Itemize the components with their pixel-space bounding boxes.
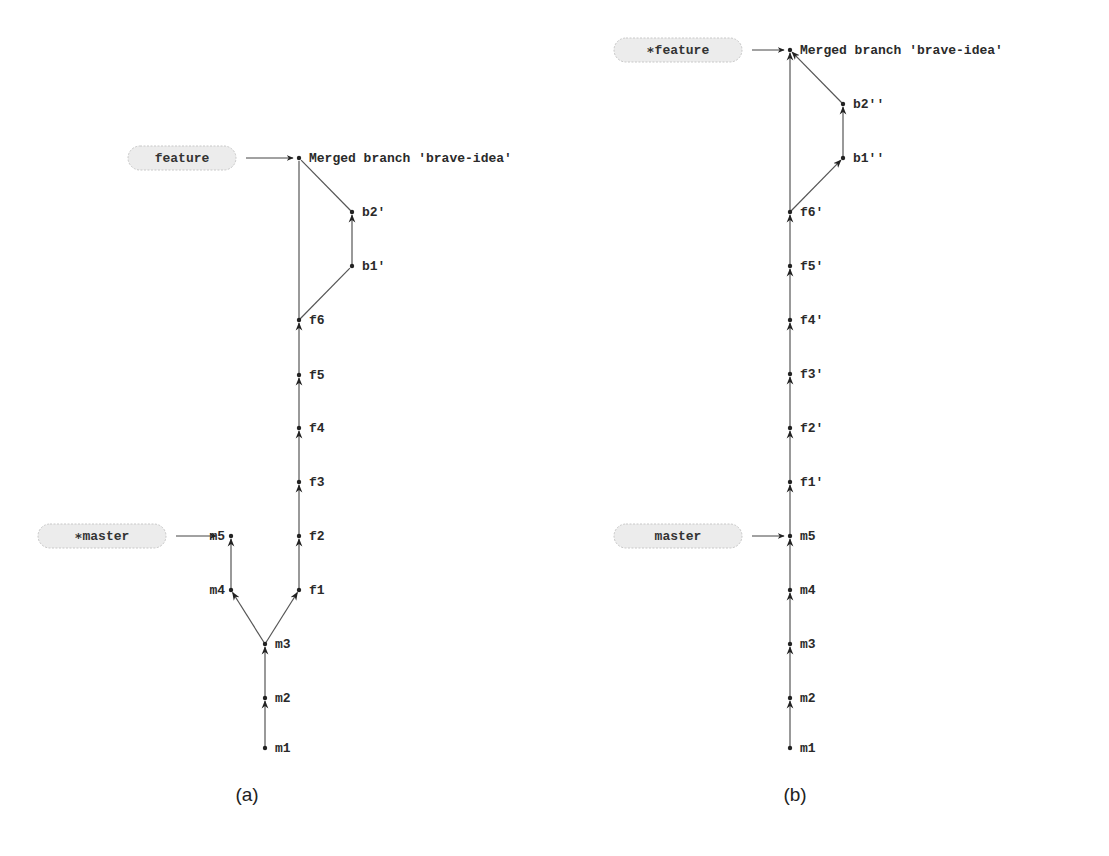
commit-node-b2 <box>841 102 845 106</box>
branch-name: ∗feature <box>647 43 710 58</box>
commit-node-m2 <box>788 696 792 700</box>
commit-label-m5: m5 <box>800 529 816 544</box>
diagram-caption: (b) <box>783 784 806 805</box>
commit-node-f1 <box>297 588 301 592</box>
commit-node-b1 <box>841 156 845 160</box>
commit-node-f6 <box>788 210 792 214</box>
commit-label-f4: f4' <box>800 313 823 328</box>
commit-label-f5: f5 <box>309 368 325 383</box>
commit-node-merge <box>297 156 301 160</box>
commit-label-b1: b1'' <box>853 151 884 166</box>
branch-name: feature <box>155 151 210 166</box>
commit-label-m1: m1 <box>800 741 816 756</box>
commit-node-merge <box>788 48 792 52</box>
commit-node-m5 <box>229 534 233 538</box>
commit-node-f3 <box>788 372 792 376</box>
commit-node-f1 <box>788 480 792 484</box>
commit-label-f1: f1 <box>309 583 325 598</box>
commit-label-f5: f5' <box>800 259 823 274</box>
commit-label-f6: f6 <box>309 313 325 328</box>
commit-label-m3: m3 <box>275 637 291 652</box>
commit-label-f1: f1' <box>800 475 823 490</box>
commit-label-f3: f3' <box>800 367 823 382</box>
commit-label-merge: Merged branch 'brave-idea' <box>800 43 1003 58</box>
commit-label-m2: m2 <box>800 691 816 706</box>
commit-node-f5 <box>297 373 301 377</box>
commit-label-m3: m3 <box>800 637 816 652</box>
branch-ref-feature: ∗feature <box>614 38 784 62</box>
commit-label-m4: m4 <box>800 583 816 598</box>
commit-label-m2: m2 <box>275 691 291 706</box>
diagram-a-before-rebase: Merged branch 'brave-idea'b2'b1'f6f5f4f3… <box>38 146 512 805</box>
branch-name: ∗master <box>75 529 130 544</box>
branch-ref-master: master <box>614 524 784 548</box>
commit-node-b2 <box>350 210 354 214</box>
commit-node-f2 <box>788 426 792 430</box>
commit-label-f2: f2 <box>309 529 325 544</box>
commit-label-b2: b2' <box>362 205 385 220</box>
commit-node-m3 <box>788 642 792 646</box>
branch-ref-feature: feature <box>128 146 293 170</box>
commit-label-b2: b2'' <box>853 97 884 112</box>
commit-node-m1 <box>788 746 792 750</box>
commit-node-m3 <box>263 642 267 646</box>
git-history-diagrams: Merged branch 'brave-idea'b2'b1'f6f5f4f3… <box>0 0 1109 856</box>
commit-node-f4 <box>297 426 301 430</box>
commit-node-b1 <box>350 264 354 268</box>
commit-node-f5 <box>788 264 792 268</box>
commit-node-m4 <box>229 588 233 592</box>
commit-label-f6: f6' <box>800 205 823 220</box>
branch-name: master <box>655 529 702 544</box>
branch-ref-master: ∗master <box>38 524 216 548</box>
commit-node-m4 <box>788 588 792 592</box>
commit-node-m5 <box>788 534 792 538</box>
commit-label-m1: m1 <box>275 741 291 756</box>
commit-node-m1 <box>263 746 267 750</box>
commit-node-f2 <box>297 534 301 538</box>
edge-m3-to-m4 <box>233 593 265 644</box>
edge-b2-to-merge <box>301 160 352 212</box>
commit-label-m4: m4 <box>209 583 225 598</box>
commit-label-merge: Merged branch 'brave-idea' <box>309 151 512 166</box>
diagram-caption: (a) <box>235 784 258 805</box>
commit-label-f2: f2' <box>800 421 823 436</box>
commit-node-f4 <box>788 318 792 322</box>
commit-node-m2 <box>263 696 267 700</box>
commit-label-f3: f3 <box>309 475 325 490</box>
commit-label-f4: f4 <box>309 421 325 436</box>
commit-node-f6 <box>297 318 301 322</box>
commit-label-b1: b1' <box>362 259 385 274</box>
diagram-b-after-rebase: Merged branch 'brave-idea'b2''b1''f6'f5'… <box>614 38 1003 805</box>
edge-b2-to-merge <box>792 52 843 104</box>
commit-node-f3 <box>297 480 301 484</box>
